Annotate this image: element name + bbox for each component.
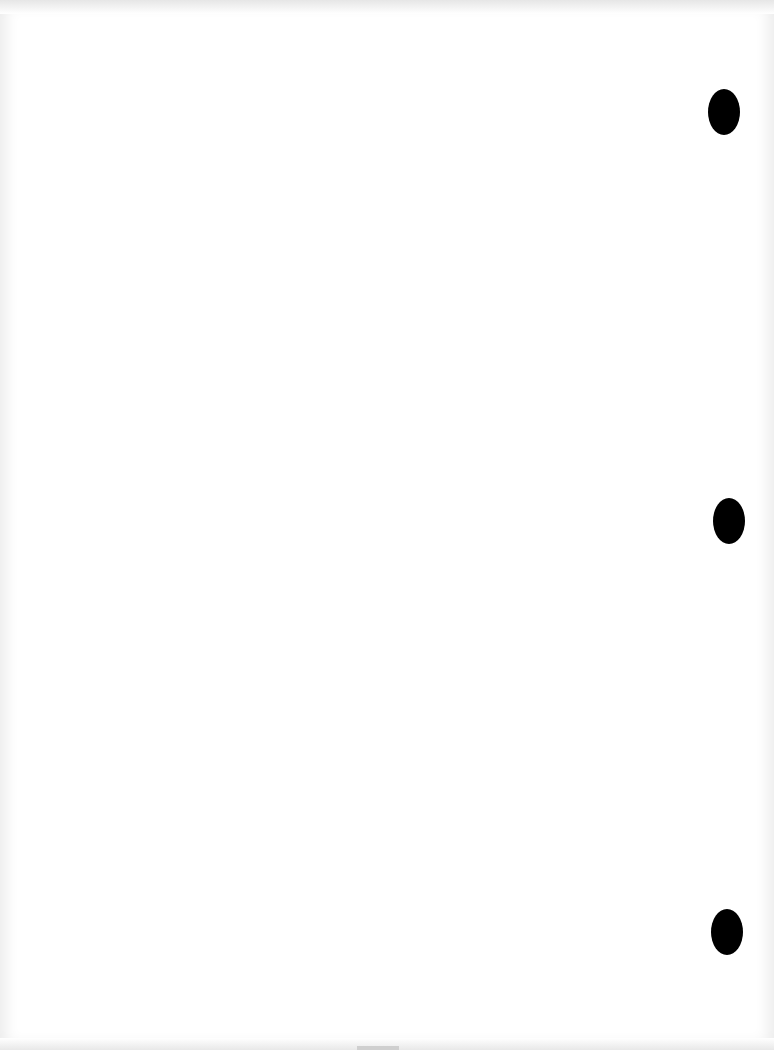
punch-hole-bottom — [711, 909, 743, 955]
blank-page — [0, 0, 774, 1050]
punch-hole-top — [708, 89, 740, 135]
scan-top-edge — [0, 0, 774, 14]
punch-hole-middle — [713, 498, 745, 544]
scan-bottom-mark — [357, 1046, 399, 1050]
